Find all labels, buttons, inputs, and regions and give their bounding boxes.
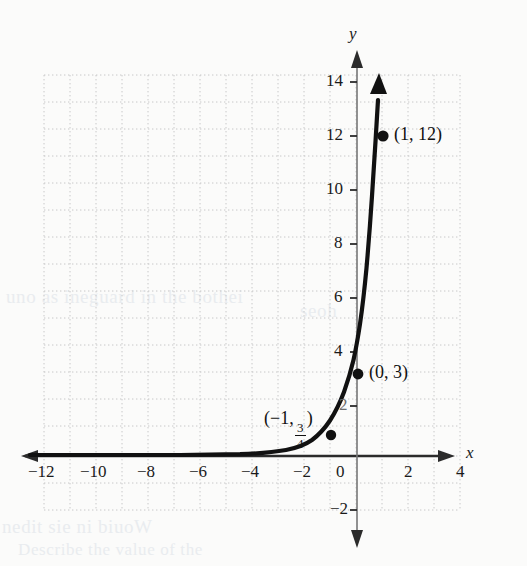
- x-tick-label: −2: [293, 462, 311, 482]
- x-tick-label: −8: [137, 462, 155, 482]
- point-label-origin: (0, 3): [369, 362, 408, 383]
- data-point-one: [377, 130, 388, 141]
- x-tick-label: −12: [28, 462, 55, 482]
- y-tick-label: 14: [326, 71, 343, 91]
- fraction-three-fourths: 34: [295, 421, 306, 450]
- x-tick-label: 0: [336, 462, 345, 482]
- x-tick-label: −10: [80, 462, 107, 482]
- fraction-denominator: 4: [296, 436, 305, 450]
- fraction-numerator: 3: [296, 421, 305, 435]
- y-tick-label: 6: [334, 287, 343, 307]
- y-tick-label: −2: [330, 499, 348, 519]
- point-label-neg-one-suffix: ): [307, 408, 313, 428]
- y-tick-label: 8: [334, 233, 343, 253]
- y-tick-label: 2: [339, 395, 348, 415]
- y-tick-label: 12: [326, 125, 343, 145]
- data-point-origin: [353, 369, 364, 380]
- x-tick-label: 4: [456, 462, 465, 482]
- figure-page: uno as ineguard in the bothei nedit sie …: [0, 0, 527, 566]
- point-label-neg-one: (−1,34): [264, 408, 313, 450]
- y-tick-label: 10: [326, 179, 343, 199]
- x-tick-label: −6: [189, 462, 207, 482]
- point-label-neg-one-prefix: (−1,: [264, 408, 294, 428]
- point-label-one: (1, 12): [394, 124, 442, 145]
- x-axis-label: x: [466, 443, 474, 463]
- y-tick-label: 4: [334, 341, 343, 361]
- x-tick-label: 2: [404, 462, 413, 482]
- data-point-neg1: [326, 430, 336, 440]
- y-axis-label: y: [349, 24, 357, 44]
- x-tick-label: −4: [241, 462, 259, 482]
